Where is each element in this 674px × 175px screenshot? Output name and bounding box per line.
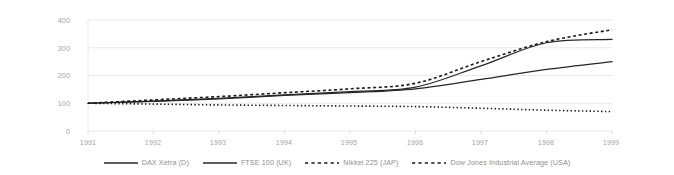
legend-label-ftse: FTSE 100 (UK): [241, 158, 291, 167]
legend-swatch-dotted-icon: [412, 159, 446, 167]
legend-item-ftse[interactable]: FTSE 100 (UK): [203, 158, 291, 167]
legend-item-nikkei[interactable]: Nikkei 225 (JAP): [305, 158, 398, 167]
legend-label-nikkei: Nikkei 225 (JAP): [343, 158, 398, 167]
chart-legend: DAX Xetra (D) FTSE 100 (UK) Nikkei 225 (…: [0, 158, 674, 167]
legend-swatch-solid-icon: [203, 159, 237, 167]
legend-item-dax[interactable]: DAX Xetra (D): [104, 158, 189, 167]
plot-area: [0, 0, 674, 175]
series-line-3: [88, 103, 612, 111]
legend-swatch-dashed-icon: [305, 159, 339, 167]
series-line-1: [88, 62, 612, 104]
legend-swatch-solid-icon: [104, 159, 138, 167]
legend-item-dowjones[interactable]: Dow Jones Industrial Average (USA): [412, 158, 570, 167]
legend-label-dowjones: Dow Jones Industrial Average (USA): [450, 158, 570, 167]
legend-label-dax: DAX Xetra (D): [142, 158, 189, 167]
chart-container: 400 300 200 100 0 1991 1992 1993 1994 19…: [0, 0, 674, 175]
